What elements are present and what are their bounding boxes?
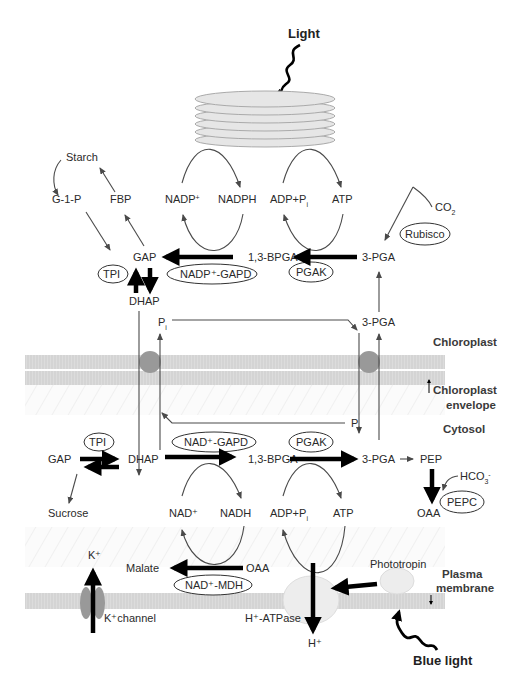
oaa-label: OAA [246, 562, 270, 574]
k-channel-label: K⁺channel [104, 612, 156, 624]
hco3-label: HCO3- [460, 470, 491, 485]
k-plus-label: K⁺ [88, 549, 101, 561]
phototropin-protein [380, 568, 414, 594]
enzyme-pepc: PEPC [447, 496, 477, 508]
chloroplast-label: Chloroplast [433, 336, 497, 348]
gap-label: GAP [133, 251, 156, 263]
bpga-label: 1,3-BPGA [248, 251, 298, 263]
sucrose-label: Sucrose [48, 507, 88, 519]
chloroplast-envelope [25, 355, 445, 415]
gap-cytosol-label: GAP [48, 453, 71, 465]
pga-translocator [358, 351, 380, 373]
enzyme-tpi-cytosol: TPI [89, 436, 106, 448]
atp-cytosol-label: ATP [333, 507, 354, 519]
chloroplast-metabolites: Starch G-1-P FBP NADP+ NADPH ADP+Pi ATP … [52, 151, 456, 331]
adp-pi-label: ADP+Pi [270, 193, 308, 208]
k-channel-subunit-left [80, 587, 92, 619]
pga-cytosol-label: 3-PGA [362, 453, 396, 465]
enzyme-nad-mdh: NAD⁺-MDH [185, 579, 243, 591]
chloroplast-envelope-label-2: envelope [446, 399, 496, 411]
pga-transport-label: 3-PGA [362, 316, 396, 328]
dhap-cytosol-label: DHAP [128, 453, 159, 465]
enzyme-nad-gapd: NAD⁺-GAPD [184, 436, 248, 448]
g1p-label: G-1-P [52, 193, 81, 205]
guard-cell-metabolism-diagram: Light Starch G-1-P FBP NADP+ NADPH ADP+P… [0, 0, 521, 684]
light-wave-icon [275, 45, 300, 97]
atp-label: ATP [332, 193, 353, 205]
enzyme-rubisco: Rubisco [405, 228, 445, 240]
oaa-pepc-label: OAA [417, 507, 441, 519]
nadp-plus-label: NADP+ [165, 193, 200, 205]
fbp-label: FBP [110, 193, 131, 205]
plasma-membrane-label-1: Plasma [442, 568, 483, 580]
co2-label: CO2 [435, 201, 456, 216]
plasma-membrane-label-2: membrane [436, 582, 494, 594]
nadph-label: NADPH [218, 193, 257, 205]
h-plus-label: H⁺ [308, 637, 322, 649]
h-atpase-label: H⁺-ATPase [245, 612, 301, 624]
malate-label: Malate [126, 562, 159, 574]
blue-light-label: Blue light [413, 653, 473, 668]
starch-label: Starch [66, 151, 98, 163]
enzyme-nadp-gapd: NADP⁺-GAPD [180, 268, 251, 280]
chloroplast-envelope-label-1: Chloroplast [433, 384, 497, 396]
light-source: Light [275, 26, 320, 97]
phototropin-label: Phototropin [370, 558, 426, 570]
cytosol-label: Cytosol [443, 423, 485, 435]
pep-label: PEP [420, 453, 442, 465]
enzyme-tpi-chloroplast: TPI [103, 268, 120, 280]
nad-plus-label: NAD⁺ [169, 507, 198, 519]
adp-pi-cytosol-label: ADP+Pi [270, 507, 308, 522]
enzyme-pgak-cytosol: PGAK [296, 436, 327, 448]
enzyme-pgak-chloroplast: PGAK [296, 266, 327, 278]
pi-label: Pi [158, 316, 167, 331]
blue-light-source: Blue light [397, 612, 473, 668]
thylakoid-stack [195, 91, 335, 147]
blue-light-wave-icon [397, 612, 437, 650]
nadh-label: NADH [220, 507, 251, 519]
light-label: Light [288, 26, 320, 41]
dhap-label: DHAP [129, 295, 160, 307]
triose-phosphate-translocator [139, 351, 161, 373]
pga-label: 3-PGA [362, 251, 396, 263]
